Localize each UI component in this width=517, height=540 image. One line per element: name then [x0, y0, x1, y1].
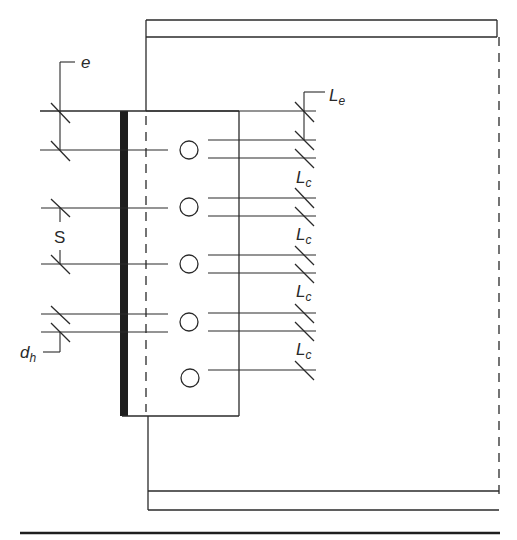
label-lc-4: Lc: [296, 340, 311, 362]
bolt-hole: [180, 198, 198, 216]
beam: [146, 20, 499, 510]
bolt-hole: [180, 313, 198, 331]
bolt-hole: [181, 369, 199, 387]
label-dh: dh: [20, 343, 36, 365]
connection-diagram: e S dh Le Lc Lc Lc Lc: [0, 0, 517, 540]
left-dimension-lines: [40, 62, 168, 352]
label-lc-2: Lc: [296, 225, 311, 247]
bolt-hole: [180, 255, 198, 273]
label-s: S: [54, 228, 65, 247]
label-le: Le: [329, 86, 345, 108]
label-e: e: [81, 53, 90, 72]
label-lc-3: Lc: [296, 282, 311, 304]
label-lc-1: Lc: [296, 168, 311, 190]
bolt-holes: [180, 141, 199, 387]
bolt-hole: [180, 141, 198, 159]
